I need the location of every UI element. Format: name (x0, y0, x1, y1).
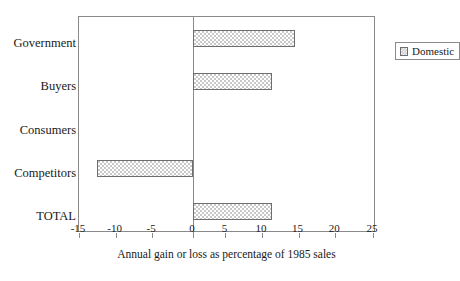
bar-row (79, 103, 374, 146)
legend-label-domestic: Domestic (412, 45, 454, 57)
x-tick-label: 20 (314, 222, 354, 234)
legend: Domestic (395, 42, 460, 60)
category-label-government: Government (0, 36, 76, 50)
x-tick-label: -15 (58, 222, 98, 234)
x-tick-label: 10 (241, 222, 281, 234)
bar-competitors (97, 160, 193, 177)
x-axis-title: Annual gain or loss as percentage of 198… (78, 248, 375, 261)
category-label-competitors: Competitors (0, 166, 76, 180)
category-label-total: TOTAL (0, 209, 76, 223)
bar-government (193, 30, 295, 47)
x-tick-label: -5 (131, 222, 171, 234)
x-tick-label: 25 (352, 222, 392, 234)
category-label-consumers: Consumers (0, 123, 76, 137)
plot-area: Domestic (78, 16, 375, 232)
bar-row (79, 60, 374, 103)
x-tick-label: 5 (204, 222, 244, 234)
x-tick-label: -10 (95, 222, 135, 234)
category-label-buyers: Buyers (0, 79, 76, 93)
bar-buyers (193, 73, 272, 90)
x-tick-label: 15 (278, 222, 318, 234)
bar-row (79, 17, 374, 60)
bar-total (193, 203, 272, 220)
legend-swatch-domestic (400, 47, 408, 56)
bar-row (79, 147, 374, 190)
